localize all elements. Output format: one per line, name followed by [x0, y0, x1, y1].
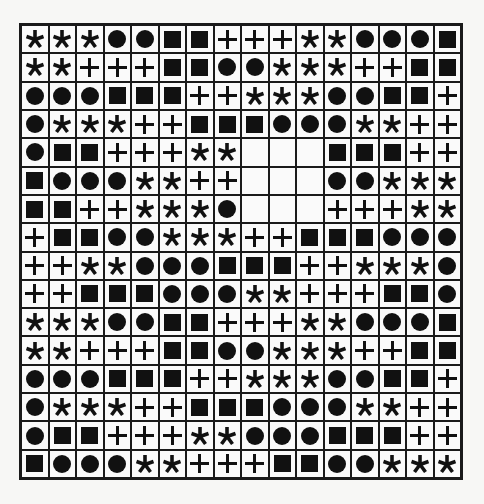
grid-cell: [132, 422, 158, 448]
grid-cell: [22, 224, 48, 250]
grid-cell: [242, 54, 268, 80]
plus-icon: [328, 256, 347, 275]
plus-icon: [438, 398, 457, 417]
grid-cell: [77, 451, 103, 477]
grid-cell: [297, 337, 323, 363]
asterisk-icon: [355, 397, 375, 417]
asterisk-icon: [327, 29, 347, 49]
grid-cell: [380, 139, 406, 165]
grid-cell: [215, 54, 241, 80]
grid-cell: [407, 139, 433, 165]
grid-cell: [352, 451, 378, 477]
square-icon: [384, 285, 401, 302]
grid-cell: [160, 111, 186, 137]
asterisk-icon: [272, 284, 292, 304]
circle-icon: [218, 58, 236, 76]
empty-cell[interactable]: [297, 168, 323, 194]
square-icon: [439, 342, 456, 359]
circle-icon: [301, 115, 319, 133]
square-icon: [26, 455, 43, 472]
square-icon: [81, 427, 98, 444]
grid-cell: [352, 281, 378, 307]
empty-cell[interactable]: [270, 196, 296, 222]
empty-cell[interactable]: [270, 168, 296, 194]
symbol-pattern-grid: [19, 23, 463, 480]
grid-cell: [105, 26, 131, 52]
empty-cell[interactable]: [242, 168, 268, 194]
grid-cell: [352, 54, 378, 80]
grid-cell: [77, 224, 103, 250]
plus-icon: [218, 171, 237, 190]
grid-cell: [105, 139, 131, 165]
plus-icon: [53, 256, 72, 275]
grid-cell: [435, 451, 461, 477]
plus-icon: [328, 200, 347, 219]
grid-cell: [105, 224, 131, 250]
asterisk-icon: [25, 312, 45, 332]
circle-icon: [328, 455, 346, 473]
plus-icon: [163, 115, 182, 134]
circle-icon: [301, 427, 319, 445]
circle-icon: [191, 285, 209, 303]
grid-cell: [242, 281, 268, 307]
grid-cell: [325, 168, 351, 194]
plus-icon: [245, 228, 264, 247]
asterisk-icon: [272, 86, 292, 106]
grid-cell: [77, 281, 103, 307]
grid-cell: [105, 281, 131, 307]
grid-cell: [325, 139, 351, 165]
circle-icon: [136, 313, 154, 331]
plus-icon: [245, 30, 264, 49]
empty-cell[interactable]: [297, 196, 323, 222]
asterisk-icon: [162, 227, 182, 247]
grid-cell: [407, 83, 433, 109]
asterisk-icon: [52, 312, 72, 332]
square-icon: [191, 59, 208, 76]
grid-cell: [77, 168, 103, 194]
grid-cell: [407, 253, 433, 279]
asterisk-icon: [382, 171, 402, 191]
empty-cell[interactable]: [297, 139, 323, 165]
square-icon: [136, 87, 153, 104]
plus-icon: [218, 86, 237, 105]
circle-icon: [81, 455, 99, 473]
asterisk-icon: [437, 454, 457, 474]
plus-icon: [108, 143, 127, 162]
circle-icon: [246, 342, 264, 360]
grid-cell: [215, 196, 241, 222]
square-icon: [411, 59, 428, 76]
asterisk-icon: [272, 57, 292, 77]
grid-cell: [187, 111, 213, 137]
circle-icon: [328, 87, 346, 105]
grid-cell: [132, 451, 158, 477]
grid-cell: [215, 83, 241, 109]
plus-icon: [245, 454, 264, 473]
grid-cell: [215, 281, 241, 307]
circle-icon: [53, 172, 71, 190]
grid-cell: [105, 422, 131, 448]
grid-cell: [325, 337, 351, 363]
grid-cell: [187, 309, 213, 335]
grid-cell: [270, 422, 296, 448]
grid-cell: [270, 451, 296, 477]
asterisk-icon: [300, 312, 320, 332]
asterisk-icon: [25, 57, 45, 77]
grid-cell: [270, 54, 296, 80]
empty-cell[interactable]: [242, 139, 268, 165]
grid-cell: [215, 139, 241, 165]
grid-cell: [132, 111, 158, 137]
grid-cell: [242, 83, 268, 109]
grid-cell: [242, 366, 268, 392]
grid-cell: [160, 281, 186, 307]
grid-cell: [352, 309, 378, 335]
grid-cell: [132, 139, 158, 165]
empty-cell[interactable]: [270, 139, 296, 165]
grid-cell: [132, 366, 158, 392]
empty-cell[interactable]: [242, 196, 268, 222]
circle-icon: [81, 370, 99, 388]
asterisk-icon: [162, 171, 182, 191]
plus-icon: [328, 284, 347, 303]
grid-cell: [50, 196, 76, 222]
grid-cell: [380, 422, 406, 448]
grid-cell: [160, 196, 186, 222]
